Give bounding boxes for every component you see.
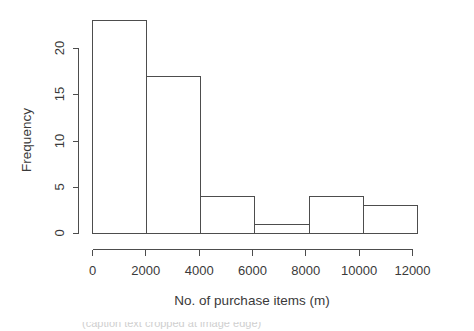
- y-tick-label: 15: [52, 87, 67, 101]
- y-axis: 0 5 10 15 20: [52, 41, 78, 237]
- histogram-bar: [309, 197, 363, 234]
- caption-text: (caption text cropped at image edge): [82, 322, 261, 329]
- histogram-bar: [93, 21, 147, 234]
- x-tick-label: 2000: [131, 263, 160, 278]
- histogram-bar: [255, 224, 309, 233]
- histogram-plot: 0 5 10 15 20 0 2000 4000 6000 8000 10000…: [0, 0, 474, 331]
- x-tick-label: 4000: [185, 263, 214, 278]
- x-tick-label: 0: [89, 263, 96, 278]
- y-tick-label: 20: [52, 41, 67, 55]
- x-axis: 0 2000 4000 6000 8000 10000 12000: [89, 250, 431, 279]
- cropped-caption: (caption text cropped at image edge): [0, 322, 474, 331]
- y-axis-title: Frequency: [19, 108, 34, 172]
- x-tick-label: 10000: [341, 263, 377, 278]
- histogram-bar: [147, 76, 201, 233]
- histogram-bar: [363, 206, 417, 234]
- x-tick-label: 8000: [291, 263, 320, 278]
- x-axis-title: No. of purchase items (m): [174, 293, 329, 308]
- y-tick-label: 5: [52, 183, 67, 190]
- y-tick-label: 0: [52, 229, 67, 236]
- histogram-bar: [201, 197, 255, 234]
- x-tick-label: 12000: [394, 263, 430, 278]
- bars-group: [93, 21, 418, 234]
- plot-canvas: 0 5 10 15 20 0 2000 4000 6000 8000 10000…: [0, 0, 474, 331]
- x-tick-label: 6000: [238, 263, 267, 278]
- y-tick-label: 10: [52, 134, 67, 148]
